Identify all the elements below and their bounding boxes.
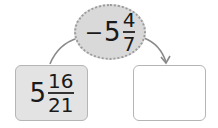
- numerator: 16: [48, 71, 73, 91]
- denominator: 7: [123, 34, 136, 54]
- fraction: 16 21: [48, 71, 73, 115]
- denominator: 21: [48, 95, 73, 115]
- whole-part: 5: [30, 78, 47, 108]
- start-mixed-number: 5 16 21: [30, 71, 74, 115]
- operation-oval: − 5 4 7: [74, 4, 146, 60]
- fraction: 4 7: [123, 10, 136, 54]
- connector-left: [50, 38, 78, 64]
- operation-mixed-number: − 5 4 7: [85, 10, 136, 54]
- start-box: 5 16 21: [15, 65, 88, 121]
- numerator: 4: [123, 10, 136, 30]
- minus-sign: −: [85, 20, 103, 45]
- whole-part: 5: [104, 17, 121, 47]
- result-answer-box[interactable]: [133, 65, 206, 121]
